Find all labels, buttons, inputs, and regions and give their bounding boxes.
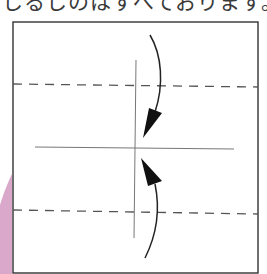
folding-diagram xyxy=(0,0,267,274)
pink-accent-shape xyxy=(0,174,12,274)
